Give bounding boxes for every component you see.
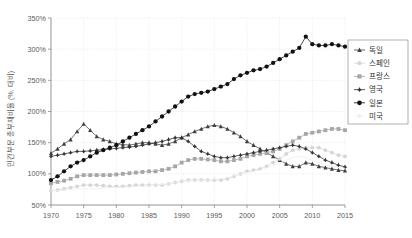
- legend-item-label: 프랑스: [369, 72, 390, 81]
- line-chart: 50%100%150%200%250%300%350% 197019751980…: [0, 0, 412, 238]
- x-tick-label: 2010: [304, 211, 320, 220]
- x-tick-label: 1990: [174, 211, 190, 220]
- legend-item-label: 독일: [369, 46, 383, 55]
- legend: 독일스페인프랑스영국일본미국: [348, 40, 408, 124]
- y-tick-label: 150%: [28, 138, 47, 147]
- x-tick-label: 2005: [272, 211, 288, 220]
- x-tick-label: 1980: [108, 211, 124, 220]
- x-tick-label: 2015: [337, 211, 353, 220]
- y-tick-label: 350%: [28, 14, 47, 23]
- x-tick-label: 1985: [141, 211, 157, 220]
- x-tick-label: 1995: [206, 211, 222, 220]
- legend-item-label: 영국: [369, 84, 383, 94]
- y-tick-label: 50%: [32, 201, 47, 210]
- y-tick-label: 250%: [28, 76, 47, 85]
- legend-item-label: 미국: [369, 112, 383, 121]
- y-axis-title: 민간부문 총부채비율 (%, 대비): [6, 71, 15, 167]
- x-tick-label: 1970: [43, 211, 59, 220]
- y-tick-label: 200%: [28, 107, 47, 116]
- y-tick-label: 300%: [28, 45, 47, 54]
- legend-item-label: 일본: [369, 99, 383, 108]
- x-tick-label: 1975: [76, 211, 92, 220]
- x-tick-label: 2000: [239, 211, 255, 220]
- y-tick-label: 100%: [28, 169, 47, 178]
- chart-container: 50%100%150%200%250%300%350% 197019751980…: [0, 0, 412, 238]
- legend-item-label: 스페인: [369, 58, 390, 68]
